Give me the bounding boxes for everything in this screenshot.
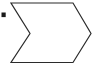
bullet-marker-icon [2, 13, 6, 18]
diagram-canvas [0, 0, 98, 68]
chevron-diagram [0, 0, 98, 68]
